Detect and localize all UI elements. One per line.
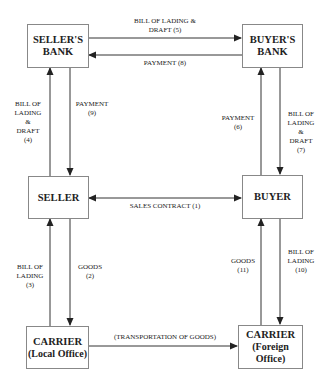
label-e5-line2: DRAFT (5) (115, 26, 215, 35)
label-e3-line3: (3) (12, 281, 48, 290)
node-carrier-foreign-line1: CARRIER (246, 329, 295, 341)
node-seller: SELLER (28, 176, 89, 219)
label-e9-line2: (9) (72, 109, 112, 118)
node-buyer-label: BUYER (254, 191, 291, 203)
label-e7-line1: BILL OF (283, 110, 319, 119)
label-e10: BILL OF LADING (10) (283, 248, 319, 275)
label-e3: BILL OF LADING (3) (12, 263, 48, 290)
label-e6: PAYMENT (6) (218, 114, 258, 132)
label-transport-line1: (TRANSPORTATION OF GOODS) (100, 333, 230, 342)
label-e3-line2: LADING (12, 272, 48, 281)
node-carrier-foreign: CARRIER (Foreign Office) (238, 325, 303, 369)
label-e6-line1: PAYMENT (218, 114, 258, 123)
label-e4-line4: DRAFT (10, 127, 46, 136)
label-e7: BILL OF LADING & DRAFT (7) (283, 110, 319, 155)
label-e6-line2: (6) (218, 123, 258, 132)
label-e8: PAYMENT (8) (115, 59, 215, 68)
node-sellers-bank: SELLER'S BANK (27, 24, 89, 68)
node-seller-label: SELLER (38, 192, 79, 204)
label-e1: SALES CONTRACT (1) (115, 202, 215, 211)
label-e3-line1: BILL OF (12, 263, 48, 272)
node-sellers-bank-line1: SELLER'S (33, 34, 83, 46)
node-carrier-local: CARRIER (Local Office) (26, 326, 89, 369)
node-sellers-bank-line2: BANK (43, 46, 73, 58)
label-e7-line4: DRAFT (283, 137, 319, 146)
label-e4-line2: LADING (10, 109, 46, 118)
label-e7-line5: (7) (283, 146, 319, 155)
label-e7-line2: LADING (283, 119, 319, 128)
label-transport: (TRANSPORTATION OF GOODS) (100, 333, 230, 342)
label-e11-line1: GOODS (228, 257, 258, 266)
label-e2-line2: (2) (72, 272, 108, 281)
node-buyers-bank: BUYER'S BANK (242, 24, 303, 68)
label-e8-line1: PAYMENT (8) (115, 59, 215, 68)
label-e1-line1: SALES CONTRACT (1) (115, 202, 215, 211)
label-e5-line1: BILL OF LADING & (115, 17, 215, 26)
node-carrier-foreign-line2: (Foreign Office) (239, 341, 302, 365)
label-e7-line3: & (283, 128, 319, 137)
label-e4-line1: BILL OF (10, 100, 46, 109)
node-buyers-bank-line2: BANK (257, 46, 287, 58)
label-e2: GOODS (2) (72, 263, 108, 281)
label-e2-line1: GOODS (72, 263, 108, 272)
label-e4-line5: (4) (10, 136, 46, 145)
label-e4-line3: & (10, 118, 46, 127)
label-e9-line1: PAYMENT (72, 100, 112, 109)
node-buyer: BUYER (242, 175, 303, 219)
node-carrier-local-line1: CARRIER (33, 336, 82, 348)
label-e11-line2: (11) (228, 266, 258, 275)
node-carrier-local-line2: (Local Office) (28, 348, 87, 360)
label-e10-line3: (10) (283, 266, 319, 275)
label-e5: BILL OF LADING & DRAFT (5) (115, 17, 215, 35)
label-e4: BILL OF LADING & DRAFT (4) (10, 100, 46, 145)
label-e10-line1: BILL OF (283, 248, 319, 257)
label-e9: PAYMENT (9) (72, 100, 112, 118)
node-buyers-bank-line1: BUYER'S (250, 34, 296, 46)
label-e10-line2: LADING (283, 257, 319, 266)
label-e11: GOODS (11) (228, 257, 258, 275)
